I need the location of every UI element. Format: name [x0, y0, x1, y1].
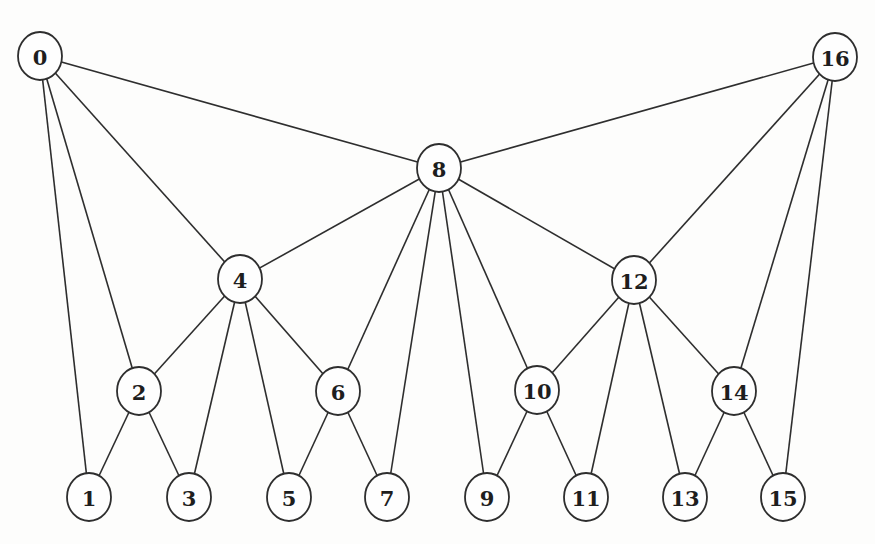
- node-12: 12: [612, 256, 656, 304]
- node-label: 15: [768, 486, 797, 511]
- node-label: 12: [619, 269, 648, 294]
- node-16: 16: [813, 33, 857, 81]
- nodes-layer: 016841226101413579111315: [18, 32, 857, 521]
- node-label: 14: [719, 380, 748, 405]
- node-11: 11: [564, 473, 608, 521]
- node-label: 1: [82, 486, 97, 511]
- node-label: 13: [670, 486, 699, 511]
- node-label: 16: [820, 46, 849, 71]
- node-1: 1: [67, 473, 111, 521]
- node-15: 15: [761, 473, 805, 521]
- edge-8-16: [439, 57, 835, 168]
- edge-4-8: [240, 168, 439, 279]
- edge-0-2: [40, 56, 139, 391]
- node-label: 7: [380, 486, 395, 511]
- edge-8-9: [439, 168, 487, 497]
- node-4: 4: [218, 255, 262, 303]
- node-5: 5: [267, 473, 311, 521]
- edge-14-16: [734, 57, 835, 391]
- edge-16-15: [783, 57, 835, 497]
- edge-12-16: [634, 57, 835, 280]
- node-label: 5: [282, 486, 297, 511]
- edge-8-10: [439, 168, 537, 390]
- node-label: 2: [132, 380, 147, 405]
- node-label: 6: [331, 380, 346, 405]
- node-14: 14: [712, 367, 756, 415]
- edge-12-13: [634, 280, 685, 497]
- node-2: 2: [117, 367, 161, 415]
- node-0: 0: [18, 32, 62, 80]
- node-label: 10: [522, 379, 551, 404]
- node-label: 9: [480, 486, 495, 511]
- edge-4-3: [189, 279, 240, 497]
- edge-0-1: [40, 56, 89, 497]
- edges-layer: [40, 56, 835, 497]
- graph-diagram: 016841226101413579111315: [0, 0, 875, 544]
- node-10: 10: [515, 366, 559, 414]
- diagram-canvas: 016841226101413579111315: [0, 0, 875, 544]
- node-6: 6: [316, 367, 360, 415]
- edge-0-4: [40, 56, 240, 279]
- node-label: 0: [33, 45, 48, 70]
- node-7: 7: [365, 473, 409, 521]
- node-3: 3: [167, 473, 211, 521]
- edge-6-8: [338, 168, 439, 391]
- node-13: 13: [663, 473, 707, 521]
- node-label: 8: [432, 157, 447, 182]
- edge-12-11: [586, 280, 634, 497]
- node-9: 9: [465, 473, 509, 521]
- edge-0-8: [40, 56, 439, 168]
- node-8: 8: [417, 144, 461, 192]
- node-label: 3: [182, 486, 197, 511]
- edge-8-7: [387, 168, 439, 497]
- node-label: 4: [233, 268, 248, 293]
- edge-8-12: [439, 168, 634, 280]
- node-label: 11: [571, 486, 600, 511]
- edge-4-5: [240, 279, 289, 497]
